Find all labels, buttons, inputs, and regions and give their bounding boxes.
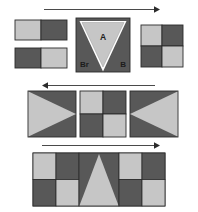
label-left-corner: Br: [80, 60, 89, 69]
diagram-canvas: A Br B: [0, 0, 198, 212]
panel-triangle-right: [28, 91, 76, 137]
split-bar-top: [15, 20, 67, 40]
wide-checker-right: [119, 153, 165, 206]
split-bar-bottom: [15, 48, 67, 68]
panel-v-triangle: A Br B: [76, 18, 130, 72]
panel-checker-right: [141, 25, 183, 67]
tiling-transformation-diagram: A Br B: [0, 0, 198, 212]
label-apex: A: [100, 32, 106, 42]
panel-wide-composite: [33, 153, 165, 206]
wide-triangle-center: [79, 153, 119, 206]
panel-checker-center: [80, 91, 126, 137]
label-right-corner: B: [120, 60, 126, 69]
panel-triangle-left: [130, 91, 178, 137]
wide-checker-left: [33, 153, 79, 206]
